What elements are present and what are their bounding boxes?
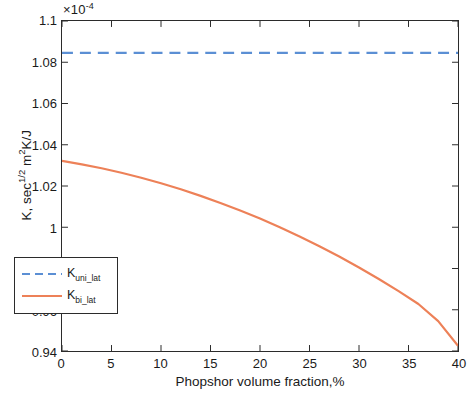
legend-line-sample-icon [21,290,63,302]
legend-label-subscript: uni_lat [75,272,100,282]
y-tick-label: 1.1 [5,13,57,28]
series-line-K_bi_lat [62,161,458,346]
y-axis-label-mid: m [18,155,33,170]
legend-entry-K_bi_lat[interactable]: Kbi_lat [21,285,111,307]
chart-figure: ×10-4 0.940.960.9811.021.041.061.081.1 0… [0,0,472,394]
chart-legend: Kuni_latKbi_lat [14,257,118,314]
x-tick-label: 25 [290,356,330,371]
legend-label: Kbi_lat [67,289,96,304]
x-tick-label: 5 [91,356,131,371]
x-tick-label: 10 [141,356,181,371]
x-axis-label: Phopshor volume fraction,% [61,374,459,389]
y-axis-multiplier-base: ×10 [63,2,86,17]
y-axis-label-exponent: 1/2 [16,170,27,183]
legend-label-subscript: bi_lat [75,294,95,304]
y-axis-label-suffix: K/J [18,130,33,150]
x-tick-label: 0 [41,356,81,371]
x-axis-tick-labels: 0510152025303540 [0,356,472,376]
y-axis-label-wrapper: K, sec1/2 m2K/J [16,75,35,275]
x-tick-label: 35 [389,356,429,371]
x-tick-label: 20 [240,356,280,371]
legend-label: Kuni_lat [67,267,100,282]
curves-svg [62,21,458,351]
x-tick-label: 40 [439,356,472,371]
y-axis-multiplier-label: ×10-4 [63,1,94,17]
y-axis-label-square: 2 [16,150,27,155]
x-tick-label: 30 [340,356,380,371]
x-tick-label: 15 [190,356,230,371]
y-axis-multiplier-exponent: -4 [86,1,94,11]
plot-area [61,20,459,352]
y-axis-label-prefix: K, sec [18,183,33,221]
y-axis-label: K, sec1/2 m2K/J [18,130,33,221]
y-tick-label: 1.08 [5,54,57,69]
legend-line-sample-icon [21,268,63,280]
legend-entry-K_uni_lat[interactable]: Kuni_lat [21,263,111,285]
